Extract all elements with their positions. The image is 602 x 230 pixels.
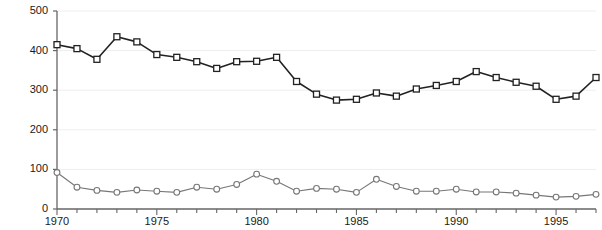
data-point-upper-series bbox=[254, 58, 260, 64]
data-point-lower-series bbox=[553, 194, 559, 200]
data-point-lower-series bbox=[314, 186, 320, 192]
x-tick-label: 1970 bbox=[27, 216, 87, 227]
data-point-lower-series bbox=[254, 171, 260, 177]
data-point-upper-series bbox=[513, 79, 519, 85]
data-point-upper-series bbox=[593, 75, 599, 81]
data-point-upper-series bbox=[473, 69, 479, 75]
data-point-upper-series bbox=[134, 39, 140, 45]
data-point-lower-series bbox=[234, 182, 240, 188]
y-tick-label: 500 bbox=[14, 5, 48, 16]
y-tick-label: 100 bbox=[14, 163, 48, 174]
data-point-lower-series bbox=[453, 186, 459, 192]
data-point-upper-series bbox=[274, 54, 280, 60]
data-point-upper-series bbox=[154, 52, 160, 58]
data-point-upper-series bbox=[393, 93, 399, 99]
data-point-lower-series bbox=[114, 189, 120, 195]
data-point-lower-series bbox=[294, 188, 300, 194]
data-point-lower-series bbox=[493, 189, 499, 195]
data-point-lower-series bbox=[473, 189, 479, 195]
data-point-upper-series bbox=[114, 34, 120, 40]
data-point-upper-series bbox=[214, 65, 220, 71]
y-tick-label: 400 bbox=[14, 45, 48, 56]
data-point-upper-series bbox=[453, 78, 459, 84]
data-point-lower-series bbox=[593, 191, 599, 197]
plot-area bbox=[0, 0, 602, 230]
data-point-upper-series bbox=[553, 96, 559, 102]
data-point-lower-series bbox=[513, 190, 519, 196]
data-point-upper-series bbox=[413, 86, 419, 92]
y-tick-label: 200 bbox=[14, 124, 48, 135]
gridlines bbox=[57, 11, 596, 169]
data-point-lower-series bbox=[194, 184, 200, 190]
series-markers bbox=[54, 34, 599, 200]
data-point-lower-series bbox=[334, 186, 340, 192]
data-point-lower-series bbox=[94, 187, 100, 193]
data-point-lower-series bbox=[413, 188, 419, 194]
data-point-upper-series bbox=[373, 90, 379, 96]
x-axis-ticks bbox=[57, 209, 596, 215]
data-point-lower-series bbox=[573, 193, 579, 199]
x-tick-label: 1995 bbox=[526, 216, 586, 227]
line-chart: 0100200300400500 19701975198019851990199… bbox=[0, 0, 602, 230]
x-tick-label: 1975 bbox=[127, 216, 187, 227]
data-point-upper-series bbox=[314, 91, 320, 97]
data-point-upper-series bbox=[74, 46, 80, 52]
data-point-upper-series bbox=[573, 93, 579, 99]
x-tick-label: 1980 bbox=[227, 216, 287, 227]
data-point-upper-series bbox=[333, 97, 339, 103]
data-point-lower-series bbox=[354, 189, 360, 195]
x-tick-label: 1990 bbox=[426, 216, 486, 227]
data-point-upper-series bbox=[54, 42, 60, 48]
data-point-upper-series bbox=[174, 54, 180, 60]
data-point-lower-series bbox=[374, 176, 380, 182]
x-tick-label: 1985 bbox=[326, 216, 386, 227]
data-point-upper-series bbox=[433, 82, 439, 88]
data-point-lower-series bbox=[54, 170, 60, 176]
data-point-upper-series bbox=[234, 59, 240, 65]
data-point-upper-series bbox=[493, 75, 499, 81]
data-point-lower-series bbox=[174, 189, 180, 195]
data-point-lower-series bbox=[134, 187, 140, 193]
y-tick-label: 0 bbox=[14, 203, 48, 214]
data-point-lower-series bbox=[433, 188, 439, 194]
data-point-lower-series bbox=[533, 192, 539, 198]
data-point-upper-series bbox=[194, 59, 200, 65]
data-point-upper-series bbox=[294, 78, 300, 84]
data-point-lower-series bbox=[393, 184, 399, 190]
data-point-upper-series bbox=[533, 83, 539, 89]
data-point-lower-series bbox=[214, 186, 220, 192]
data-point-upper-series bbox=[353, 96, 359, 102]
data-point-lower-series bbox=[74, 184, 80, 190]
data-point-lower-series bbox=[154, 188, 160, 194]
data-point-lower-series bbox=[274, 178, 280, 184]
series-lines bbox=[57, 37, 596, 197]
y-tick-label: 300 bbox=[14, 84, 48, 95]
data-point-upper-series bbox=[94, 56, 100, 62]
